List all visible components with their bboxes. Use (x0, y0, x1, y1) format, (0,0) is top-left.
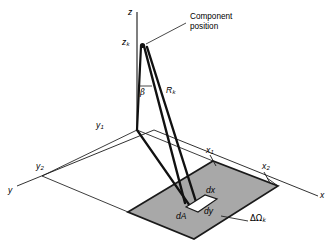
ref-edge-left (42, 130, 137, 176)
dy-label: dy (204, 207, 213, 217)
callout-line-1: Component (190, 12, 232, 22)
ray-left (144, 46, 185, 203)
slant-range-label: Rk (166, 86, 175, 96)
component-height-label: zk (122, 38, 130, 48)
axis-group (17, 12, 318, 196)
solid-angle-label: ΔΩk (250, 214, 266, 224)
y2-label: y2 (36, 162, 44, 172)
z-axis-label: z (128, 8, 132, 18)
y-axis-label: y (8, 186, 12, 196)
dx-label: dx (206, 186, 215, 196)
y-axis-line (17, 130, 154, 186)
y1-label: y1 (96, 121, 104, 131)
component-position-callout: Component position (190, 12, 232, 32)
angle-beta-label: β (140, 88, 145, 98)
ref-edge-bottom-left (42, 176, 128, 212)
dA-label: dA (176, 212, 186, 222)
callout-line-2: position (190, 22, 232, 32)
diagram-canvas (0, 0, 335, 245)
callout-leader-line (146, 23, 186, 44)
x-axis-label: x (320, 191, 324, 201)
component-position-diagram: z zk Component position β Rk y1 x1 y2 x2… (0, 0, 335, 245)
component-position-marker (140, 43, 145, 48)
x1-label: x1 (206, 146, 214, 156)
x2-label: x2 (262, 162, 270, 172)
